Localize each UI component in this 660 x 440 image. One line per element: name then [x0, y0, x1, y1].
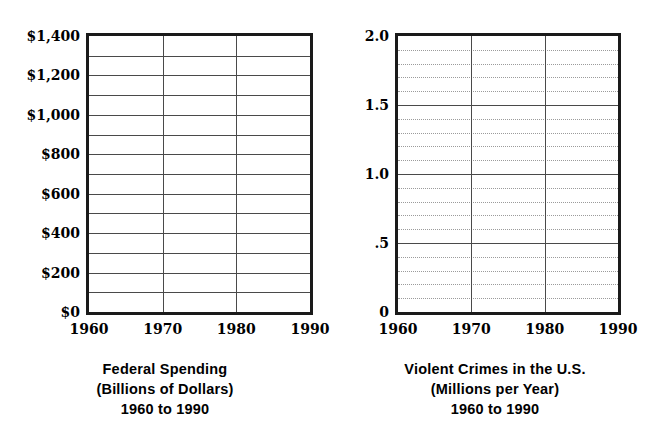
- y-axis-tick-label: $1,000: [26, 108, 80, 122]
- gridline-minor-horizontal: [398, 77, 618, 78]
- x-axis-tick-label: 1960: [70, 322, 109, 336]
- gridline-major-horizontal: [398, 105, 618, 106]
- gridline-major-horizontal: [398, 174, 618, 175]
- gridline-minor-horizontal: [398, 146, 618, 147]
- gridline-minor-horizontal: [89, 292, 310, 293]
- y-axis-tick-label: 1.0: [365, 167, 389, 181]
- figure-violent-crimes: 0.51.01.52.0 1960197019801990 Violent Cr…: [330, 0, 660, 440]
- gridline-minor-horizontal: [398, 257, 618, 258]
- gridline-minor-horizontal: [398, 215, 618, 216]
- gridline-minor-horizontal: [89, 95, 310, 96]
- y-axis-tick-label: .5: [374, 236, 389, 250]
- plot-area-federal-spending: [86, 33, 313, 315]
- caption-federal-spending: Federal Spending (Billions of Dollars) 1…: [0, 359, 330, 419]
- gridline-major-horizontal: [89, 75, 310, 76]
- gridline-major-horizontal: [89, 194, 310, 195]
- caption-line-1: Violent Crimes in the U.S.: [330, 359, 660, 379]
- y-axis-tick-label: $200: [41, 266, 80, 280]
- y-axis-tick-label: $0: [61, 305, 80, 319]
- x-axis-tick-label: 1980: [525, 322, 564, 336]
- gridline-minor-horizontal: [398, 64, 618, 65]
- gridline-minor-horizontal: [89, 174, 310, 175]
- x-axis-tick-label: 1970: [143, 322, 182, 336]
- gridline-minor-horizontal: [89, 253, 310, 254]
- caption-line-1: Federal Spending: [0, 359, 330, 379]
- y-axis-tick-label: 2.0: [365, 29, 389, 43]
- gridline-major-horizontal: [89, 273, 310, 274]
- x-axis-tick-label: 1970: [452, 322, 491, 336]
- y-axis-tick-label: 1.5: [365, 98, 389, 112]
- x-axis-tick-label: 1980: [217, 322, 256, 336]
- gridline-minor-horizontal: [398, 91, 618, 92]
- gridline-minor-horizontal: [398, 160, 618, 161]
- gridline-major-vertical: [163, 36, 164, 312]
- x-axis-labels-violent-crimes: 1960197019801990: [330, 322, 660, 342]
- x-axis-tick-label: 1990: [291, 322, 330, 336]
- gridline-minor-horizontal: [398, 119, 618, 120]
- x-axis-tick-label: 1990: [599, 322, 638, 336]
- gridline-minor-horizontal: [398, 188, 618, 189]
- gridline-minor-horizontal: [398, 229, 618, 230]
- gridline-major-vertical: [545, 36, 546, 312]
- caption-line-3: 1960 to 1990: [0, 399, 330, 419]
- gridline-major-vertical: [236, 36, 237, 312]
- y-axis-tick-label: $1,400: [26, 29, 80, 43]
- gridline-major-horizontal: [89, 233, 310, 234]
- gridline-minor-horizontal: [398, 298, 618, 299]
- gridline-major-horizontal: [398, 243, 618, 244]
- y-axis-tick-label: $400: [41, 226, 80, 240]
- x-axis-labels-federal-spending: 1960197019801990: [0, 322, 330, 342]
- gridline-major-vertical: [471, 36, 472, 312]
- gridline-minor-horizontal: [398, 50, 618, 51]
- gridline-minor-horizontal: [398, 284, 618, 285]
- x-axis-tick-label: 1960: [379, 322, 418, 336]
- gridline-minor-horizontal: [398, 202, 618, 203]
- gridlines-violent-crimes: [398, 36, 618, 312]
- gridline-minor-horizontal: [398, 133, 618, 134]
- gridline-minor-horizontal: [398, 271, 618, 272]
- gridline-minor-horizontal: [89, 135, 310, 136]
- plot-area-violent-crimes: [395, 33, 621, 315]
- gridline-minor-horizontal: [89, 213, 310, 214]
- y-axis-tick-label: $800: [41, 147, 80, 161]
- gridline-major-horizontal: [89, 115, 310, 116]
- y-axis-tick-label: $600: [41, 187, 80, 201]
- gridlines-federal-spending: [89, 36, 310, 312]
- caption-violent-crimes: Violent Crimes in the U.S. (Millions per…: [330, 359, 660, 419]
- y-axis-tick-label: 0: [379, 305, 389, 319]
- gridline-minor-horizontal: [89, 56, 310, 57]
- figure-federal-spending: $0$200$400$600$800$1,000$1,200$1,400 196…: [0, 0, 330, 440]
- y-axis-tick-label: $1,200: [26, 68, 80, 82]
- caption-line-3: 1960 to 1990: [330, 399, 660, 419]
- caption-line-2: (Billions of Dollars): [0, 379, 330, 399]
- caption-line-2: (Millions per Year): [330, 379, 660, 399]
- gridline-major-horizontal: [89, 154, 310, 155]
